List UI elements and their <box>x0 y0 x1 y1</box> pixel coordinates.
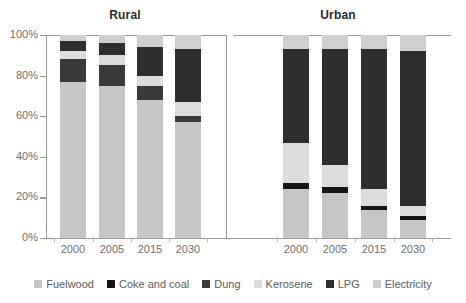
bar-segment-electricity <box>400 35 426 51</box>
legend-item-fuelwood[interactable]: Fuelwood <box>34 278 94 290</box>
x-tick-mark <box>277 238 278 242</box>
bar-segment-lpg <box>283 49 309 142</box>
bars-urban <box>0 0 466 303</box>
legend-item-kerosene[interactable]: Kerosene <box>254 278 313 290</box>
bar-urban-2000 <box>283 35 309 238</box>
bar-segment-fuelwood <box>361 210 387 238</box>
legend-item-dung[interactable]: Dung <box>202 278 240 290</box>
legend-label: Dung <box>214 278 240 290</box>
bar-segment-electricity <box>283 35 309 49</box>
legend-item-lpg[interactable]: LPG <box>326 278 360 290</box>
chart-root: Rural Urban 100%80%60%40%20%0% 200020052… <box>0 0 466 303</box>
x-tick-label-urban-2030: 2030 <box>390 243 436 255</box>
x-tick-mark <box>355 238 356 242</box>
bar-segment-fuelwood <box>400 220 426 238</box>
bar-segment-kerosene <box>400 206 426 216</box>
bar-segment-kerosene <box>361 189 387 205</box>
bar-segment-fuelwood <box>283 189 309 238</box>
legend-label: Coke and coal <box>119 278 189 290</box>
legend-label: Fuelwood <box>46 278 94 290</box>
x-tick-mark <box>93 238 94 242</box>
bar-segment-lpg <box>322 49 348 165</box>
bar-segment-kerosene <box>322 165 348 187</box>
bar-segment-kerosene <box>283 143 309 184</box>
legend-swatch-icon <box>254 280 262 288</box>
legend-swatch-icon <box>373 280 381 288</box>
bar-urban-2005 <box>322 35 348 238</box>
legend-swatch-icon <box>202 280 210 288</box>
bar-segment-electricity <box>361 35 387 49</box>
x-tick-mark <box>131 238 132 242</box>
bar-segment-fuelwood <box>322 193 348 238</box>
chart-legend: FuelwoodCoke and coalDungKeroseneLPGElec… <box>0 278 466 290</box>
x-tick-label-rural-2030: 2030 <box>165 243 211 255</box>
legend-label: Kerosene <box>266 278 313 290</box>
x-tick-mark <box>394 238 395 242</box>
bar-segment-coke-and-coal <box>400 216 426 220</box>
legend-label: Electricity <box>385 278 432 290</box>
legend-swatch-icon <box>107 280 115 288</box>
legend-swatch-icon <box>34 280 42 288</box>
legend-item-electricity[interactable]: Electricity <box>373 278 432 290</box>
bar-segment-electricity <box>322 35 348 49</box>
bar-segment-lpg <box>361 49 387 189</box>
bar-urban-2030 <box>400 35 426 238</box>
x-tick-mark <box>169 238 170 242</box>
x-tick-mark <box>207 238 208 242</box>
legend-label: LPG <box>338 278 360 290</box>
x-tick-mark <box>316 238 317 242</box>
x-tick-mark <box>432 238 433 242</box>
x-tick-mark <box>54 238 55 242</box>
bar-segment-coke-and-coal <box>361 206 387 210</box>
bar-segment-coke-and-coal <box>283 183 309 189</box>
legend-swatch-icon <box>326 280 334 288</box>
bar-segment-lpg <box>400 51 426 205</box>
bar-urban-2015 <box>361 35 387 238</box>
bar-segment-coke-and-coal <box>322 187 348 193</box>
legend-item-coke-and-coal[interactable]: Coke and coal <box>107 278 189 290</box>
